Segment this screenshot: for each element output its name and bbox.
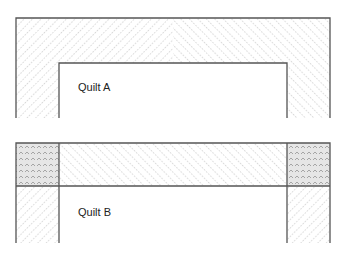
quilt-b-cornerstone-right — [287, 143, 330, 186]
quilt-a-left-border — [16, 18, 173, 118]
quilt-b-cornerstone-left — [16, 143, 59, 186]
quilt-a-label: Quilt A — [78, 81, 110, 93]
quilt-a-right-border — [173, 18, 330, 118]
quilt-a-diagram — [16, 18, 330, 118]
quilt-b-label: Quilt B — [78, 206, 111, 218]
quilt-b-top-border — [59, 143, 287, 186]
quilt-diagrams — [0, 0, 346, 255]
quilt-b-diagram — [16, 143, 330, 243]
quilt-b-left-border — [16, 186, 59, 243]
quilt-b-right-border — [287, 186, 330, 243]
